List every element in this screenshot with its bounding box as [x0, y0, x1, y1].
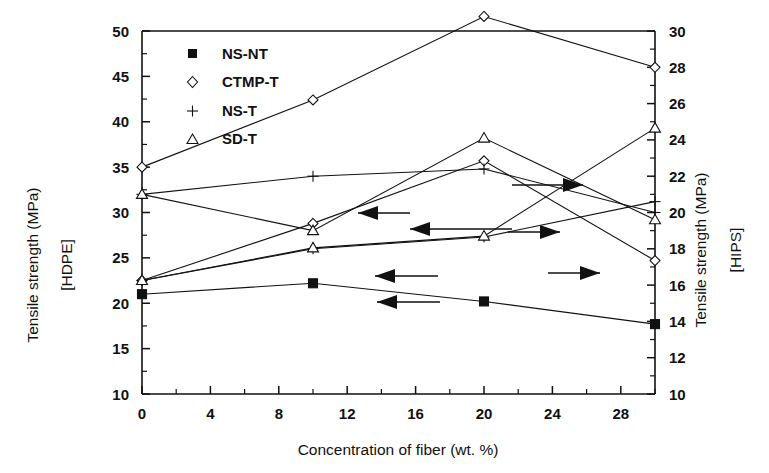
data-point [309, 279, 318, 288]
series-ns-nt-0 [138, 279, 660, 329]
data-point [650, 62, 660, 72]
open-triangle-marker [479, 133, 490, 143]
legend-item-sd-t: SD-T [187, 130, 257, 147]
axis-pointer-arrow-right-3 [548, 266, 600, 280]
data-point [479, 11, 489, 21]
left-tick-label: 10 [112, 386, 129, 403]
open-triangle-marker [479, 231, 490, 241]
data-point [479, 231, 490, 241]
filled-square-marker [651, 320, 660, 329]
series-line [142, 128, 655, 280]
x-tick-label: 4 [206, 405, 215, 422]
filled-square-marker [138, 290, 147, 299]
y-axis-title: Tensile strength (MPa) [24, 187, 41, 342]
x-tick-label: 24 [544, 405, 561, 422]
open-diamond-marker [650, 62, 660, 72]
left-tick-label: 20 [112, 295, 129, 312]
right-tick-label: 28 [669, 59, 686, 76]
open-diamond-marker [137, 162, 147, 172]
right-tick-label: 20 [669, 204, 686, 221]
x-axis-ticks: 0481216202428 [138, 386, 655, 422]
legend-label-0: NS-NT [222, 45, 268, 62]
data-point [650, 214, 661, 224]
right-tick-label: 12 [669, 349, 686, 366]
x-tick-label: 20 [476, 405, 493, 422]
legend-item-ns-nt: NS-NT [188, 45, 268, 62]
series-line [142, 283, 655, 324]
data-point [308, 95, 318, 105]
y2-axis-title: Tensile strength (MPa) [692, 172, 709, 327]
open-diamond-icon [188, 77, 198, 88]
right-tick-label: 26 [669, 95, 686, 112]
data-point [479, 163, 490, 174]
series-sd-t-6 [137, 133, 661, 235]
legend-label-2: NS-T [222, 102, 257, 119]
filled-square-icon [188, 49, 197, 58]
left-tick-label: 50 [112, 23, 129, 40]
data-point [650, 123, 661, 132]
open-triangle-icon [187, 134, 198, 144]
left-tick-label: 35 [112, 159, 129, 176]
open-diamond-marker [650, 256, 660, 266]
chart-legend: NS-NT CTMP-T NS-T SD-T [187, 45, 279, 147]
x-tick-label: 16 [407, 405, 424, 422]
data-point [651, 320, 660, 329]
series-line [142, 169, 655, 213]
right-tick-label: 16 [669, 277, 686, 294]
filled-square-marker [309, 279, 318, 288]
right-tick-label: 30 [669, 23, 686, 40]
data-point [138, 290, 147, 299]
right-tick-label: 24 [669, 131, 686, 148]
right-tick-label: 14 [669, 313, 686, 330]
series-ctmp-t-2 [137, 11, 660, 172]
filled-square-marker [480, 297, 489, 306]
data-point [137, 162, 147, 172]
open-triangle-marker [650, 214, 661, 224]
open-diamond-marker [479, 11, 489, 21]
data-point [650, 256, 660, 266]
series-line [142, 16, 655, 167]
left-tick-label: 25 [112, 249, 129, 266]
x-tick-label: 0 [138, 405, 146, 422]
legend-label-1: CTMP-T [222, 73, 279, 90]
right-tick-label: 22 [669, 168, 686, 185]
left-tick-label: 30 [112, 204, 129, 221]
axis-pointer-arrow-left-3 [375, 269, 438, 283]
legend-label-3: SD-T [222, 130, 257, 147]
data-point [650, 196, 661, 207]
x-tick-label: 12 [339, 405, 356, 422]
left-axis-ticks: 101520253035404550 [112, 23, 150, 403]
right-tick-label: 18 [669, 240, 686, 257]
x-tick-label: 28 [612, 405, 629, 422]
series-sd-t-5 [137, 123, 661, 285]
chart-figure: 101520253035404550 101214161820222426283… [0, 0, 769, 473]
axis-pointer-arrow-left-4 [377, 295, 440, 309]
left-tick-label: 40 [112, 113, 129, 130]
left-tick-label: 15 [112, 340, 129, 357]
series-line [142, 161, 655, 281]
legend-item-ns-t: NS-T [187, 102, 257, 119]
open-diamond-marker [308, 95, 318, 105]
x-axis-title: Concentration of fiber (wt. %) [298, 441, 499, 458]
series-layer [137, 11, 661, 328]
data-point [479, 133, 490, 143]
data-point [308, 171, 319, 182]
axis-pointer-arrow-left-1 [358, 206, 410, 220]
y-axis-subtitle: [HDPE] [58, 239, 75, 291]
y2-axis-subtitle: [HIPS] [727, 228, 744, 273]
legend-item-ctmp-t: CTMP-T [188, 73, 279, 90]
data-point [480, 297, 489, 306]
x-tick-label: 8 [275, 405, 283, 422]
open-triangle-marker [650, 123, 661, 132]
right-tick-label: 10 [669, 386, 686, 403]
chart-svg: 101520253035404550 101214161820222426283… [0, 0, 769, 473]
left-tick-label: 45 [112, 68, 129, 85]
